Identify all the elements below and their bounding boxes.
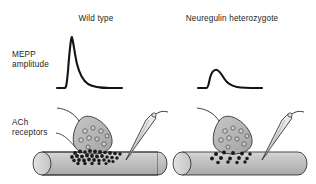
figure-container: Wild type Neuregulin heterozygote MEPP a…	[0, 0, 316, 184]
muscle-fiber-neuregulin	[173, 152, 307, 175]
column-title-neuregulin-heterozygote: Neuregulin heterozygote	[186, 14, 279, 23]
mepp-label-line2: amplitude	[12, 60, 49, 69]
mepp-label-line1: MEPP	[12, 50, 36, 59]
ach-label-line1: ACh	[12, 118, 29, 127]
ach-label-line2: receptors	[12, 128, 47, 137]
column-title-wild-type: Wild type	[78, 14, 113, 23]
muscle-fiber-end-cap-wild-type	[33, 152, 51, 175]
pipette-hub-neuregulin	[288, 113, 292, 117]
muscle-fiber-end-cap-neuregulin	[173, 152, 191, 175]
pipette-hub-wild-type	[152, 113, 156, 117]
